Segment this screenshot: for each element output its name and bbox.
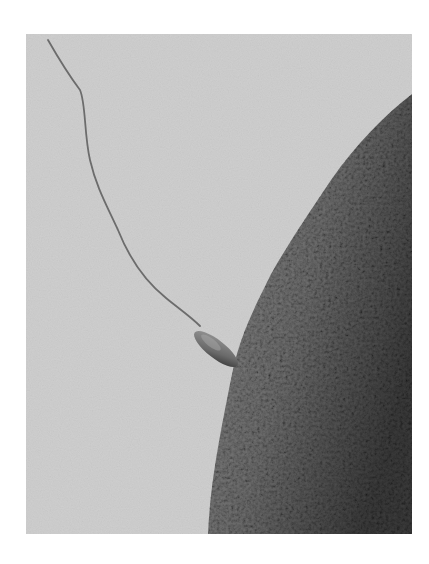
micrograph-photo xyxy=(26,34,412,534)
